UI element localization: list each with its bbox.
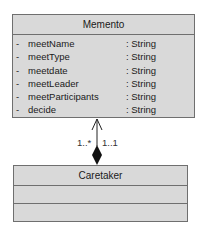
multiplicity-memento-side: 1..* bbox=[77, 137, 91, 148]
caretaker-operations-section bbox=[14, 204, 187, 221]
caretaker-class: Caretaker bbox=[13, 165, 188, 222]
caretaker-attributes-section bbox=[14, 186, 187, 204]
multiplicity-caretaker-side: 1..1 bbox=[102, 137, 118, 148]
caretaker-class-name: Caretaker bbox=[14, 166, 187, 186]
filled-diamond-icon bbox=[92, 145, 102, 165]
